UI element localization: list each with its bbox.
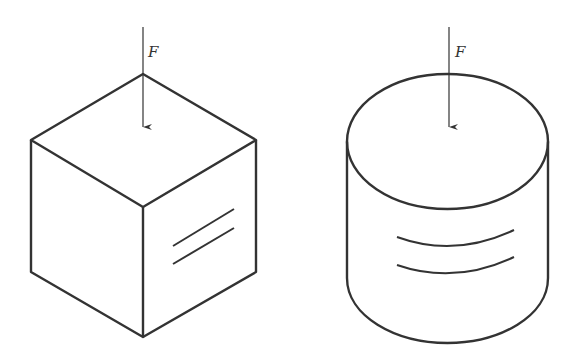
cube-surface-mark-1 (173, 209, 234, 246)
cube-left-face (31, 140, 143, 337)
cube-force-label: F (147, 43, 159, 61)
diagram-svg: F F (0, 0, 575, 363)
cylinder-force-label: F (454, 43, 466, 61)
cylinder-body (347, 142, 548, 344)
cylinder-surface-mark-1 (397, 230, 514, 246)
cylinder-top-ellipse (347, 74, 548, 209)
cylinder (347, 74, 548, 343)
cylinder-surface-mark-2 (397, 257, 514, 273)
cylinder-force-arrow: F (449, 27, 466, 127)
diagram-canvas: F F (0, 0, 575, 363)
cube-right-face (143, 140, 256, 337)
cube-force-arrow: F (143, 27, 159, 127)
cube-surface-mark-2 (173, 228, 234, 264)
